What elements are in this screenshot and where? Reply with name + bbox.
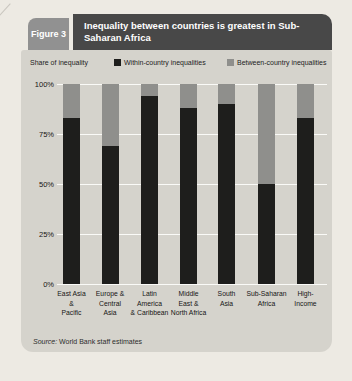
- bar-between-country: [258, 84, 275, 184]
- plot-area: 100%75%50%25%0%East Asia&PacificEurope &…: [21, 50, 332, 352]
- bar-within-country: [102, 146, 119, 284]
- bar-within-country: [63, 118, 80, 284]
- bar-within-country: [258, 184, 275, 284]
- bar-between-country: [297, 84, 314, 118]
- gridline-0%: [57, 284, 327, 285]
- figure-title: Inequality between countries is greatest…: [84, 20, 299, 43]
- bar-within-country: [180, 108, 197, 284]
- bar-within-country: [297, 118, 314, 284]
- bar-within-country: [218, 104, 235, 284]
- y-tick-label: 100%: [21, 80, 54, 89]
- figure-number-label: Figure 3: [31, 29, 66, 39]
- scan-artifact-mark: [0, 3, 11, 16]
- figure-title-box: Inequality between countries is greatest…: [73, 14, 332, 50]
- source-text: World Bank staff estimates: [59, 338, 142, 345]
- chart-area: Share of inequality Within-country inequ…: [21, 50, 332, 352]
- y-tick-label: 25%: [21, 230, 54, 239]
- bar-between-country: [218, 84, 235, 104]
- figure-panel: Figure 3 Inequality between countries is…: [21, 14, 332, 352]
- y-tick-label: 75%: [21, 130, 54, 139]
- bar-between-country: [102, 84, 119, 146]
- bar-within-country: [141, 96, 158, 284]
- bar-between-country: [141, 84, 158, 96]
- source-note: Source: World Bank staff estimates: [33, 338, 142, 345]
- bar-between-country: [180, 84, 197, 108]
- figure-number-box: Figure 3: [28, 18, 69, 50]
- bar-between-country: [63, 84, 80, 118]
- scanned-figure-page: Figure 3 Inequality between countries is…: [0, 0, 352, 381]
- y-tick-label: 0%: [21, 280, 54, 289]
- category-label: High-Income: [279, 289, 333, 308]
- source-prefix: Source:: [33, 338, 57, 345]
- y-tick-label: 50%: [21, 180, 54, 189]
- figure-header: Figure 3 Inequality between countries is…: [21, 14, 332, 50]
